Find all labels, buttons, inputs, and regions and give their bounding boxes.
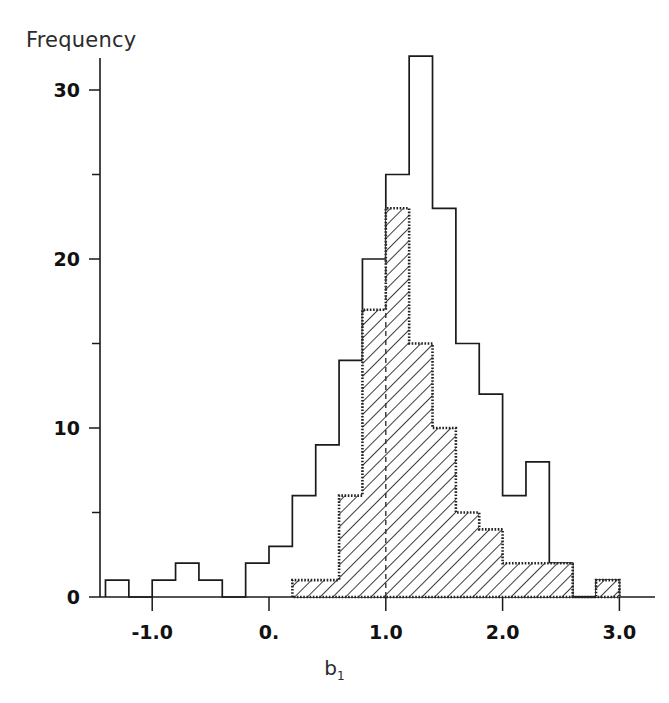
histogram-plot: 0102030-1.00.1.02.03.0 — [0, 0, 669, 703]
x-tick-label: -1.0 — [131, 621, 173, 643]
x-tick-label: 2.0 — [486, 621, 520, 643]
x-tick-label: 1.0 — [369, 621, 403, 643]
x-tick-label: 3.0 — [603, 621, 637, 643]
y-tick-label: 30 — [54, 79, 80, 101]
chart-canvas: Frequency b1 0102030-1.00.1.02.03.0 — [0, 0, 669, 703]
y-tick-label: 0 — [67, 586, 80, 608]
y-tick-label: 10 — [54, 417, 80, 439]
y-tick-label: 20 — [54, 248, 80, 270]
x-tick-label: 0. — [259, 621, 279, 643]
